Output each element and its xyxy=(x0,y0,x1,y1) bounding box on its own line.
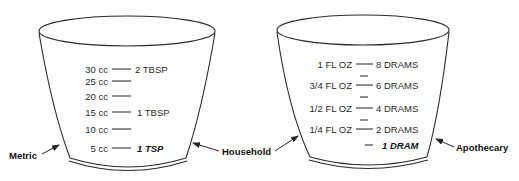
metric-household-cup: 30 cc 2 TBSP 25 cc 20 cc 15 cc 1 TBSP 10… xyxy=(39,16,215,171)
metric-label: 15 cc xyxy=(85,107,108,118)
apothecary-label: 6 DRAMS xyxy=(376,80,418,91)
metric-callout-label: Metric xyxy=(9,150,37,161)
household-label: 1/4 FL OZ xyxy=(310,124,353,135)
scale-row: 1/2 FL OZ 4 DRAMS xyxy=(310,103,419,114)
arrow-icon xyxy=(275,136,298,151)
household-label-emphasis: 1 TSP xyxy=(137,143,164,154)
callout-household: Household xyxy=(193,136,298,157)
household-label: 1 TBSP xyxy=(137,107,170,118)
scale-row: 1 DRAM xyxy=(365,140,420,151)
apothecary-label-emphasis: 1 DRAM xyxy=(382,140,420,151)
scale-row: 10 cc xyxy=(85,124,131,135)
household-label: 2 TBSP xyxy=(135,64,168,75)
cup-rim xyxy=(277,15,449,45)
scale-row: 20 cc xyxy=(85,91,131,102)
measuring-cups-diagram: 30 cc 2 TBSP 25 cc 20 cc 15 cc 1 TBSP 10… xyxy=(0,0,519,181)
scale-row: 3/4 FL OZ 6 DRAMS xyxy=(310,80,419,91)
scale-row: 30 cc 2 TBSP xyxy=(85,64,167,75)
arrow-icon xyxy=(42,145,59,154)
scale-row: 1 FL OZ 8 DRAMS xyxy=(318,59,419,70)
household-apothecary-cup: 1 FL OZ 8 DRAMS 3/4 FL OZ 6 DRAMS 1/2 FL… xyxy=(277,15,449,169)
household-label: 1/2 FL OZ xyxy=(310,103,353,114)
apothecary-callout-label: Apothecary xyxy=(456,142,509,153)
cup-right-wall xyxy=(186,33,215,158)
cup-rim xyxy=(39,16,215,46)
metric-label: 20 cc xyxy=(85,91,108,102)
apothecary-label: 8 DRAMS xyxy=(376,59,418,70)
arrow-icon xyxy=(193,143,219,151)
household-callout-label: Household xyxy=(222,146,271,157)
household-label: 1 FL OZ xyxy=(318,59,353,70)
cup-right-wall xyxy=(427,32,449,157)
callout-metric: Metric xyxy=(9,145,59,161)
scale-row: 25 cc xyxy=(85,76,131,87)
scale-row: 5 cc 1 TSP xyxy=(91,143,164,154)
apothecary-label: 2 DRAMS xyxy=(376,124,418,135)
scale-row: 1/4 FL OZ 2 DRAMS xyxy=(310,124,419,135)
cup-left-wall xyxy=(39,33,70,158)
household-label: 3/4 FL OZ xyxy=(310,80,353,91)
cup-left-wall xyxy=(277,32,310,157)
apothecary-label: 4 DRAMS xyxy=(376,103,418,114)
cup-base xyxy=(310,157,427,165)
scale-row: 15 cc 1 TBSP xyxy=(85,107,169,118)
metric-label: 25 cc xyxy=(85,76,108,87)
metric-label: 30 cc xyxy=(85,64,108,75)
arrow-icon xyxy=(436,139,454,147)
callout-apothecary: Apothecary xyxy=(436,139,509,153)
metric-label: 10 cc xyxy=(85,124,108,135)
metric-label: 5 cc xyxy=(91,143,109,154)
